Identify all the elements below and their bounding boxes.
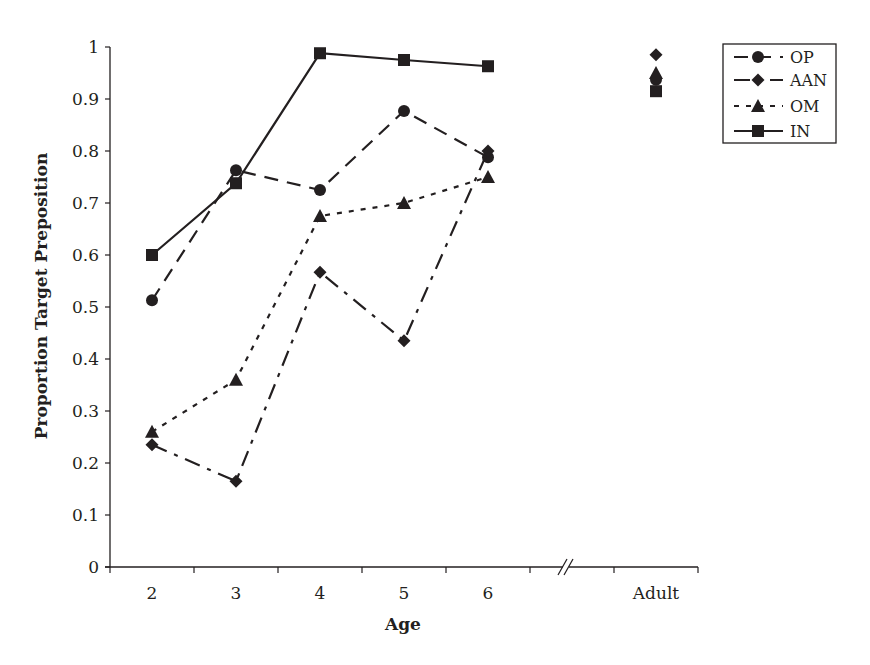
x-tick-label: 2 [147, 583, 158, 603]
legend-box [723, 44, 836, 143]
legend-label: OP [790, 48, 814, 67]
series-om [145, 66, 663, 438]
circle-marker-icon [398, 105, 410, 117]
axes: 00.10.20.30.40.50.60.70.80.9123456Adult [72, 37, 698, 603]
square-marker-icon [230, 177, 242, 189]
diamond-marker-icon [146, 438, 159, 451]
diamond-marker-icon [650, 48, 663, 61]
square-marker-icon [482, 60, 494, 72]
series-in [146, 47, 662, 261]
triangle-marker-icon [229, 373, 243, 386]
x-tick-label: 6 [483, 583, 494, 603]
y-tick-label: 0.6 [72, 245, 99, 265]
square-marker-icon [398, 54, 410, 66]
x-tick-label: 5 [399, 583, 410, 603]
x-tick-label: 4 [315, 583, 326, 603]
series-line [152, 53, 488, 255]
legend-label: IN [790, 122, 810, 141]
x-tick-label: 3 [231, 583, 242, 603]
y-tick-label: 0.8 [72, 141, 99, 161]
legend-label: OM [790, 97, 820, 116]
x-tick-label: Adult [632, 583, 680, 603]
y-axis-title: Proportion Target Preposition [31, 153, 51, 439]
diamond-marker-icon [230, 475, 243, 488]
y-tick-label: 0.1 [72, 505, 99, 525]
square-marker-icon [314, 47, 326, 59]
diamond-marker-icon [398, 334, 411, 347]
y-tick-label: 0 [88, 557, 99, 577]
y-tick-label: 0.7 [72, 193, 99, 213]
diamond-marker-icon [314, 266, 327, 279]
triangle-marker-icon [481, 170, 495, 183]
square-marker-icon [650, 85, 662, 97]
y-tick-label: 0.3 [72, 401, 99, 421]
y-tick-label: 0.5 [72, 297, 99, 317]
legend: OPAANOMIN [723, 44, 836, 143]
triangle-marker-icon [145, 425, 159, 438]
triangle-marker-icon [649, 66, 663, 79]
x-axis-title: Age [384, 614, 421, 634]
square-marker-icon [146, 249, 158, 261]
y-tick-label: 1 [88, 37, 99, 57]
y-tick-label: 0.2 [72, 453, 99, 473]
series-op [146, 74, 662, 306]
circle-marker-icon [314, 184, 326, 196]
series-line [152, 151, 488, 481]
circle-marker-icon [146, 294, 158, 306]
circle-marker-icon [230, 164, 242, 176]
line-chart: 00.10.20.30.40.50.60.70.80.9123456Adult … [0, 0, 870, 665]
legend-label: AAN [789, 71, 827, 90]
legend-square-icon [752, 125, 764, 137]
series-layer [145, 47, 663, 487]
y-tick-label: 0.4 [72, 349, 99, 369]
legend-circle-icon [752, 51, 764, 63]
triangle-marker-icon [313, 209, 327, 222]
y-tick-label: 0.9 [72, 89, 99, 109]
